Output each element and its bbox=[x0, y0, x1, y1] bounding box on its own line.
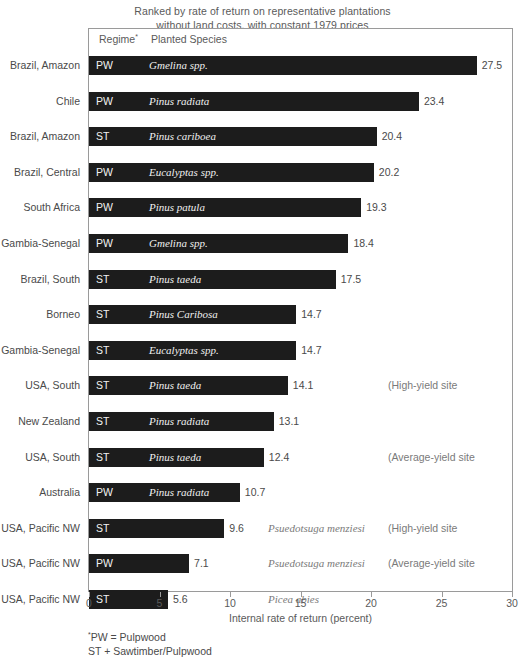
bar-value-label: 19.3 bbox=[366, 198, 386, 217]
bar-regime-label: ST bbox=[96, 270, 109, 289]
bar-regime-label: ST bbox=[96, 305, 109, 324]
column-header-regime: Regime* bbox=[99, 33, 138, 45]
bar-regime-label: PW bbox=[96, 554, 113, 573]
bar-value-label: 18.4 bbox=[353, 234, 373, 253]
row-label-location: Borneo bbox=[0, 305, 80, 324]
bar: PWGmelina spp. bbox=[89, 56, 477, 75]
chart-row: Gambia-SenegalPWGmelina spp.18.4 bbox=[0, 234, 525, 253]
chart-row: USA, SouthSTPinus taeda14.1(High-yield s… bbox=[0, 376, 525, 395]
x-axis-tick-label: 25 bbox=[436, 597, 448, 609]
row-label-location: Chile bbox=[0, 92, 80, 111]
bar: STPinus radiata bbox=[89, 412, 274, 431]
x-axis-tick-label: 20 bbox=[365, 597, 377, 609]
column-header-species: Planted Species bbox=[151, 33, 227, 45]
row-label-location: Gambia-Senegal bbox=[0, 341, 80, 360]
bar-species-label: Eucalyptas spp. bbox=[149, 163, 219, 182]
bar-species-label: Pinus radiata bbox=[149, 92, 209, 111]
x-axis-tick-label: 5 bbox=[157, 597, 163, 609]
bar-regime-label: ST bbox=[96, 519, 109, 538]
bar-species-label: Gmelina spp. bbox=[149, 56, 208, 75]
footnote-line-1-text: PW = Pulpwood bbox=[91, 631, 166, 643]
bar-regime-label: PW bbox=[96, 198, 113, 217]
bar-regime-label: ST bbox=[96, 412, 109, 431]
bar-regime-label: ST bbox=[96, 341, 109, 360]
bar-value-label: 14.7 bbox=[301, 305, 321, 324]
row-label-location: USA, Pacific NW bbox=[0, 554, 80, 573]
chart-row: Brazil, SouthSTPinus taeda17.5 bbox=[0, 270, 525, 289]
x-axis-tick-label: 30 bbox=[506, 597, 518, 609]
bar-value-label: 14.1 bbox=[293, 376, 313, 395]
bar-value-label: 23.4 bbox=[424, 92, 444, 111]
chart-row: Gambia-SenegalSTEucalyptas spp.14.7 bbox=[0, 341, 525, 360]
row-label-location: Australia bbox=[0, 483, 80, 502]
chart-row: USA, Pacific NWST9.6Psuedotsuga menziesi… bbox=[0, 519, 525, 538]
column-headers: Regime* Planted Species bbox=[88, 33, 513, 53]
bar-species-label: Pinus taeda bbox=[149, 448, 201, 467]
bar-regime-label: ST bbox=[96, 448, 109, 467]
row-label-location: USA, Pacific NW bbox=[0, 590, 80, 609]
row-label-location: Brazil, Amazon bbox=[0, 56, 80, 75]
row-label-location: USA, South bbox=[0, 448, 80, 467]
chart-row: USA, Pacific NWPW7.1Psuedotsuga menziesi… bbox=[0, 554, 525, 573]
outside-species-label: Psuedotsuga menziesi bbox=[268, 519, 365, 538]
bar: STPinus taeda bbox=[89, 376, 288, 395]
bar-regime-label: PW bbox=[96, 234, 113, 253]
bar-value-label: 17.5 bbox=[341, 270, 361, 289]
x-axis: 051015202530 bbox=[88, 592, 513, 593]
bar-regime-label: PW bbox=[96, 163, 113, 182]
bar: PW bbox=[89, 554, 189, 573]
bar-species-label: Pinus radiata bbox=[149, 412, 209, 431]
x-axis-title: Internal rate of return (percent) bbox=[88, 612, 513, 624]
footnote-marker-icon: * bbox=[135, 33, 138, 40]
bar-value-label: 20.2 bbox=[379, 163, 399, 182]
bar: PWPinus radiata bbox=[89, 483, 240, 502]
bar-value-label: 12.4 bbox=[269, 448, 289, 467]
chart-row: Brazil, CentralPWEucalyptas spp.20.2 bbox=[0, 163, 525, 182]
bar-species-label: Gmelina spp. bbox=[149, 234, 208, 253]
chart-row: BorneoSTPinus Caribosa14.7 bbox=[0, 305, 525, 324]
bar: PWPinus patula bbox=[89, 198, 361, 217]
chart-row: USA, SouthSTPinus taeda12.4(Average-yiel… bbox=[0, 448, 525, 467]
row-label-location: Brazil, South bbox=[0, 270, 80, 289]
x-axis-tick-label: 15 bbox=[295, 597, 307, 609]
bar-species-label: Eucalyptas spp. bbox=[149, 341, 219, 360]
row-yield-note: (Average-yield site bbox=[388, 554, 475, 573]
x-axis-tick-label: 10 bbox=[224, 597, 236, 609]
bar-species-label: Pinus taeda bbox=[149, 376, 201, 395]
row-label-location: Gambia-Senegal bbox=[0, 234, 80, 253]
row-yield-note: (High-yield site bbox=[388, 519, 457, 538]
chart-title-line-1: Ranked by rate of return on representati… bbox=[0, 4, 525, 18]
bar-regime-label: ST bbox=[96, 376, 109, 395]
bar-regime-label: PW bbox=[96, 92, 113, 111]
bar-value-label: 14.7 bbox=[301, 341, 321, 360]
row-label-location: USA, South bbox=[0, 376, 80, 395]
row-label-location: Brazil, Amazon bbox=[0, 127, 80, 146]
column-header-regime-label: Regime bbox=[99, 33, 135, 45]
bar: STPinus taeda bbox=[89, 270, 336, 289]
bar: STPinus cariboea bbox=[89, 127, 377, 146]
bar-regime-label: PW bbox=[96, 56, 113, 75]
bar-value-label: 27.5 bbox=[482, 56, 502, 75]
bar-regime-label: PW bbox=[96, 483, 113, 502]
footnote-line-2: ST + Sawtimber/Pulpwood bbox=[88, 644, 212, 658]
row-label-location: Brazil, Central bbox=[0, 163, 80, 182]
outside-species-label: Psuedotsuga menziesi bbox=[268, 554, 365, 573]
bar: STPinus taeda bbox=[89, 448, 264, 467]
row-yield-note: (High-yield site bbox=[388, 376, 457, 395]
bar-species-label: Pinus radiata bbox=[149, 483, 209, 502]
bar-value-label: 9.6 bbox=[229, 519, 244, 538]
bar: PWGmelina spp. bbox=[89, 234, 348, 253]
chart-row: Brazil, AmazonSTPinus cariboea20.4 bbox=[0, 127, 525, 146]
bar: PWPinus radiata bbox=[89, 92, 419, 111]
chart-row: New ZealandSTPinus radiata13.1 bbox=[0, 412, 525, 431]
bar-value-label: 13.1 bbox=[279, 412, 299, 431]
footnote-line-1: *PW = Pulpwood bbox=[88, 630, 212, 644]
row-label-location: USA, Pacific NW bbox=[0, 519, 80, 538]
chart-row: AustraliaPWPinus radiata10.7 bbox=[0, 483, 525, 502]
row-label-location: New Zealand bbox=[0, 412, 80, 431]
bar-species-label: Pinus Caribosa bbox=[149, 305, 218, 324]
row-yield-note: (Average-yield site bbox=[388, 448, 475, 467]
bar-value-label: 10.7 bbox=[245, 483, 265, 502]
bar-regime-label: ST bbox=[96, 127, 109, 146]
bar: STEucalyptas spp. bbox=[89, 341, 296, 360]
